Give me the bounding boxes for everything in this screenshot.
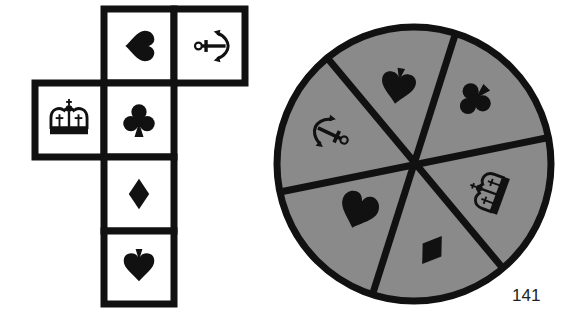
net-cell-club (104, 83, 174, 157)
net-cell-heart (104, 9, 174, 83)
net-cell-crown (35, 83, 104, 157)
page-number: 141 (512, 286, 540, 306)
net-cell-spade (104, 231, 174, 304)
net-cell-anchor (174, 9, 245, 83)
net-cell-diamond (104, 157, 174, 231)
cube-net (35, 9, 245, 304)
puzzle-figure (0, 0, 575, 323)
symbol-wheel (277, 27, 551, 301)
